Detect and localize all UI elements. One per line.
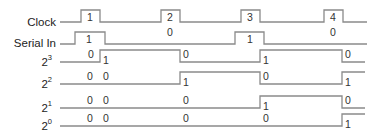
signal-bit2: 2200101 (41, 70, 365, 90)
bit-value: 0 (88, 48, 94, 60)
bit-value: 2 (167, 11, 173, 23)
bit-value: 1 (183, 76, 189, 88)
bit-value: 1 (103, 54, 109, 66)
waveform-serial-in (60, 32, 367, 44)
bit-value: 0 (167, 26, 173, 38)
signal-bit1: 2100010 (41, 94, 365, 114)
signal-label-bit1: 21 (41, 99, 52, 114)
signals-layer: Clock1234Serial In1010230101022001012100… (14, 10, 367, 132)
signal-exponent: 3 (48, 53, 52, 62)
bit-value: 0 (183, 94, 189, 106)
signal-bit0: 2000001 (41, 112, 365, 132)
bit-value: 1 (86, 33, 92, 45)
signal-label-bit2: 22 (41, 75, 52, 90)
bit-value: 1 (345, 76, 351, 88)
bit-value: 0 (183, 112, 189, 124)
bit-value: 1 (247, 33, 253, 45)
bit-value: 0 (103, 70, 109, 82)
signal-label-bit3: 23 (41, 53, 52, 68)
bit-value: 0 (103, 112, 109, 124)
signal-label-clock: Clock (27, 16, 56, 28)
signal-label-serial-in: Serial In (14, 37, 56, 49)
waveform-clock (60, 10, 367, 22)
bit-value: 0 (87, 94, 93, 106)
bit-value: 1 (263, 100, 269, 112)
signal-exponent: 2 (48, 75, 52, 84)
signal-exponent: 0 (48, 117, 52, 126)
bit-value: 1 (87, 11, 93, 23)
signal-clock: Clock1234 (27, 10, 367, 28)
bit-value: 0 (87, 70, 93, 82)
bit-value: 1 (345, 118, 351, 130)
signal-exponent: 1 (48, 99, 52, 108)
bit-value: 0 (330, 26, 336, 38)
bit-value: 3 (247, 11, 253, 23)
signal-bit3: 2301010 (41, 48, 365, 68)
bit-value: 0 (345, 94, 351, 106)
bit-value: 0 (183, 48, 189, 60)
bit-value: 0 (345, 48, 351, 60)
signal-label-bit0: 20 (41, 117, 52, 132)
bit-value: 0 (263, 112, 269, 124)
bit-value: 0 (263, 70, 269, 82)
bit-value: 4 (330, 11, 336, 23)
bit-value: 1 (263, 54, 269, 66)
signal-serial-in: Serial In1010 (14, 26, 367, 49)
timing-diagram: Clock1234Serial In1010230101022001012100… (0, 0, 382, 135)
bit-value: 0 (87, 112, 93, 124)
bit-value: 0 (103, 94, 109, 106)
